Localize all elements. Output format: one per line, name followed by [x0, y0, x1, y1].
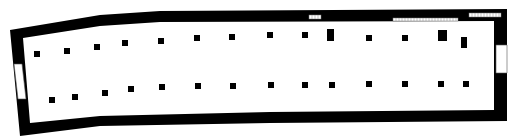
- pier: [194, 35, 200, 41]
- pier: [461, 37, 467, 48]
- pier: [463, 81, 469, 87]
- pier: [329, 82, 335, 88]
- pier: [268, 82, 274, 88]
- pier: [366, 81, 372, 87]
- pier: [49, 97, 55, 103]
- pier: [438, 81, 444, 87]
- north-pier-row: [34, 29, 500, 57]
- floor-plan: [0, 0, 531, 138]
- north-window-3: [469, 13, 501, 17]
- pier: [327, 29, 334, 41]
- floor-plan-drawing: [0, 0, 531, 138]
- pier: [159, 84, 165, 90]
- pier: [128, 86, 134, 92]
- pier: [402, 81, 408, 87]
- pier: [302, 82, 308, 88]
- pier: [496, 81, 502, 87]
- south-pier-row: [49, 81, 502, 103]
- east-doorway: [496, 45, 507, 73]
- pier: [267, 32, 273, 38]
- exterior-walls: [10, 9, 507, 136]
- pier: [438, 30, 447, 41]
- pier: [72, 94, 78, 100]
- pier: [122, 40, 128, 46]
- pier: [402, 35, 408, 41]
- pier: [494, 34, 500, 40]
- pier: [34, 51, 40, 57]
- doorways: [14, 45, 507, 99]
- pier: [229, 34, 235, 40]
- north-window-1: [309, 15, 321, 19]
- pier: [102, 90, 108, 96]
- pier: [230, 83, 236, 89]
- pier: [366, 35, 372, 41]
- pier: [158, 38, 164, 44]
- pier: [302, 32, 308, 38]
- north-window-2: [393, 18, 458, 21]
- pier: [94, 44, 100, 50]
- pier: [64, 48, 70, 54]
- pier: [195, 83, 201, 89]
